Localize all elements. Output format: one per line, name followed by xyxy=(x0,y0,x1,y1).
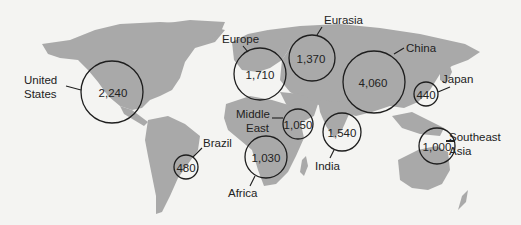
land-madagascar xyxy=(300,156,308,176)
label-africa: Africa xyxy=(228,187,258,199)
label-brazil: Brazil xyxy=(203,137,232,149)
leader-line xyxy=(330,150,334,158)
leader-line xyxy=(438,87,450,92)
leader-line xyxy=(250,176,255,186)
label-europe: Europe xyxy=(222,33,259,45)
label-united-states: United xyxy=(24,74,57,86)
leader-line xyxy=(66,86,81,90)
value-middle-east: 1,050 xyxy=(284,119,313,131)
value-china: 4,060 xyxy=(359,77,388,89)
label-southeast-asia: Southeast xyxy=(449,131,502,143)
map-canvas: 2,240 United States 1,710 Europe 1,370 E… xyxy=(0,0,521,225)
label-middle-east: Middle xyxy=(236,108,270,120)
label-eurasia: Eurasia xyxy=(324,14,364,26)
world-bubble-map: 2,240 United States 1,710 Europe 1,370 E… xyxy=(0,0,521,225)
value-southeast-asia: 1,000 xyxy=(423,141,452,153)
label-japan: Japan xyxy=(442,73,473,85)
value-brazil: 480 xyxy=(176,162,195,174)
land-new-zealand xyxy=(458,190,468,210)
value-japan: 440 xyxy=(416,89,435,101)
value-eurasia: 1,370 xyxy=(297,53,326,65)
value-united-states: 2,240 xyxy=(99,87,128,99)
value-india: 1,540 xyxy=(328,127,357,139)
label-middle-east-line2: East xyxy=(246,122,270,134)
land-se-asia xyxy=(392,112,444,136)
label-southeast-asia-line2: Asia xyxy=(449,145,472,157)
label-india: India xyxy=(315,160,341,172)
value-europe: 1,710 xyxy=(246,69,275,81)
value-africa: 1,030 xyxy=(252,152,281,164)
label-united-states-line2: States xyxy=(24,88,57,100)
label-china: China xyxy=(406,42,437,54)
